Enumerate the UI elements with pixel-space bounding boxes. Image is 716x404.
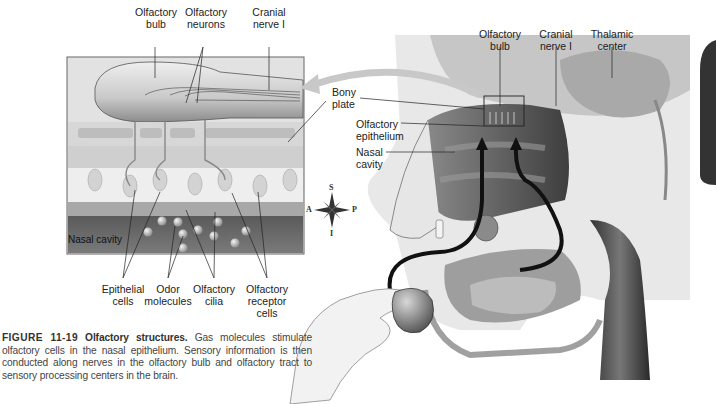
compass-inferior: I xyxy=(330,229,333,238)
label-olfactory-cilia: Olfactory cilia xyxy=(188,283,240,307)
label-line: Nasal xyxy=(356,146,383,158)
figure-title: Olfactory structures. xyxy=(85,332,187,343)
label-line: Olfactory xyxy=(178,6,234,18)
label-line: bulb xyxy=(474,40,526,52)
candy xyxy=(392,288,433,332)
label-line: Olfactory xyxy=(128,6,184,18)
figure-number: FIGURE 11-19 xyxy=(2,332,78,343)
label-line: Cranial xyxy=(532,28,580,40)
page-tab xyxy=(700,40,716,185)
label-inset-cranial-nerve-i: Cranial nerve I xyxy=(244,6,294,30)
label-line: Cranial xyxy=(244,6,294,18)
label-line: Thalamic xyxy=(586,28,638,40)
label-head-cranial-nerve-i: Cranial nerve I xyxy=(532,28,580,52)
label-line: Olfactory xyxy=(240,283,294,295)
label-bony-plate: Bony plate xyxy=(332,86,356,110)
label-line: nerve I xyxy=(532,40,580,52)
label-line: center xyxy=(586,40,638,52)
label-head-olfactory-bulb: Olfactory bulb xyxy=(474,28,526,52)
label-line: epithelium xyxy=(356,130,404,142)
label-line: Bony xyxy=(332,86,356,98)
inset-panel xyxy=(67,57,304,254)
label-line: cells xyxy=(240,307,294,319)
figure-caption: FIGURE 11-19 Olfactory structures. Gas m… xyxy=(2,332,312,382)
compass-superior: S xyxy=(329,183,333,192)
label-nasal-cavity: Nasal cavity xyxy=(356,146,383,170)
compass-rose xyxy=(314,192,350,228)
label-line: cavity xyxy=(356,158,383,170)
label-line: Olfactory xyxy=(474,28,526,40)
label-line: bulb xyxy=(128,18,184,30)
label-inset-nasal-cavity: Nasal cavity xyxy=(68,234,122,246)
label-olfactory-epithelium: Olfactory epithelium xyxy=(356,118,404,142)
label-inset-olfactory-bulb: Olfactory bulb xyxy=(128,6,184,30)
label-line: Olfactory xyxy=(356,118,404,130)
compass-anterior: A xyxy=(306,205,312,214)
label-line: nerve I xyxy=(244,18,294,30)
label-line: cilia xyxy=(188,295,240,307)
label-thalamic-center: Thalamic center xyxy=(586,28,638,52)
label-line: neurons xyxy=(178,18,234,30)
label-line: plate xyxy=(332,98,356,110)
label-inset-olfactory-neurons: Olfactory neurons xyxy=(178,6,234,30)
label-line: Olfactory xyxy=(188,283,240,295)
compass-posterior: P xyxy=(352,205,357,214)
label-olfactory-receptor-cells: Olfactory receptor cells xyxy=(240,283,294,319)
label-line: receptor xyxy=(240,295,294,307)
